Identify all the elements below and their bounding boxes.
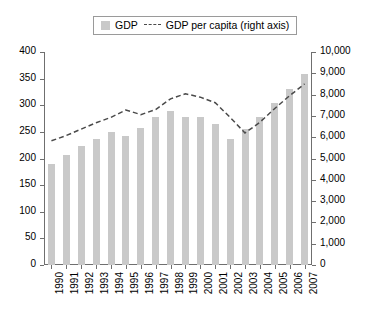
x-tick (141, 265, 142, 269)
x-tick (200, 265, 201, 269)
left-tick-label: 350 (19, 73, 36, 83)
right-tick (312, 116, 316, 117)
gdp-per-capita-line (51, 84, 304, 141)
x-tick-label: 1993 (100, 272, 110, 294)
right-tick (312, 222, 316, 223)
x-tick-label: 2005 (279, 272, 289, 294)
x-tick-label: 1991 (70, 272, 80, 294)
x-tick-label: 1992 (85, 272, 95, 294)
legend-swatch-bar-icon (101, 21, 110, 30)
right-tick-label: 3,000 (320, 195, 345, 205)
x-tick-label: 2006 (294, 272, 304, 294)
right-tick-label: 5,000 (320, 153, 345, 163)
left-tick-label: 100 (19, 206, 36, 216)
legend-label-gdp: GDP (115, 20, 138, 31)
x-tick-label: 1998 (175, 272, 185, 294)
x-tick-label: 2001 (219, 272, 229, 294)
x-tick-label: 2002 (234, 272, 244, 294)
x-tick-label: 1990 (55, 272, 65, 294)
x-tick (245, 265, 246, 269)
left-tick-label: 400 (19, 46, 36, 56)
x-tick (185, 265, 186, 269)
x-tick (171, 265, 172, 269)
right-tick-label: 0 (320, 259, 326, 269)
x-tick (290, 265, 291, 269)
legend-label-gdp-per-capita: GDP per capita (right axis) (166, 20, 290, 31)
right-tick-label: 10,000 (320, 46, 351, 56)
x-tick (260, 265, 261, 269)
right-tick (312, 95, 316, 96)
right-tick-label: 2,000 (320, 216, 345, 226)
left-tick-label: 200 (19, 153, 36, 163)
legend-item-gdp-per-capita: GDP per capita (right axis) (144, 20, 290, 31)
x-tick-label: 1994 (115, 272, 125, 294)
x-tick-label: 1999 (189, 272, 199, 294)
right-tick-label: 8,000 (320, 89, 345, 99)
x-tick (156, 265, 157, 269)
x-tick-label: 1996 (145, 272, 155, 294)
x-tick-label: 2007 (309, 272, 319, 294)
right-tick-label: 4,000 (320, 174, 345, 184)
left-tick-label: 150 (19, 179, 36, 189)
x-tick (126, 265, 127, 269)
chart-legend: GDP GDP per capita (right axis) (93, 16, 297, 35)
right-tick-label: 7,000 (320, 110, 345, 120)
right-tick-label: 1,000 (320, 238, 345, 248)
x-tick (96, 265, 97, 269)
x-tick-label: 2000 (204, 272, 214, 294)
x-tick (51, 265, 52, 269)
right-tick (312, 137, 316, 138)
right-tick (312, 244, 316, 245)
x-tick (275, 265, 276, 269)
x-tick (305, 265, 306, 269)
x-tick (111, 265, 112, 269)
right-tick (312, 159, 316, 160)
right-tick (312, 73, 316, 74)
legend-item-gdp: GDP (101, 20, 138, 31)
x-tick (215, 265, 216, 269)
right-tick-label: 6,000 (320, 131, 345, 141)
left-tick-label: 250 (19, 126, 36, 136)
x-tick (230, 265, 231, 269)
left-tick (40, 265, 44, 266)
legend-dashed-line-icon (144, 24, 161, 25)
chart-root: GDP GDP per capita (right axis) 05010015… (0, 0, 385, 309)
left-tick-label: 50 (25, 232, 36, 242)
x-tick-label: 1995 (130, 272, 140, 294)
plot-area: 050100150200250300350400 01,0002,0003,00… (44, 52, 312, 265)
x-tick-label: 1997 (160, 272, 170, 294)
right-tick (312, 52, 316, 53)
x-tick-label: 2003 (249, 272, 259, 294)
right-tick-label: 9,000 (320, 67, 345, 77)
x-tick (66, 265, 67, 269)
left-tick-label: 0 (30, 259, 36, 269)
right-tick (312, 201, 316, 202)
right-tick (312, 180, 316, 181)
right-tick (312, 265, 316, 266)
x-tick (81, 265, 82, 269)
line-series (44, 52, 312, 265)
x-tick-label: 2004 (264, 272, 274, 294)
left-tick-label: 300 (19, 99, 36, 109)
